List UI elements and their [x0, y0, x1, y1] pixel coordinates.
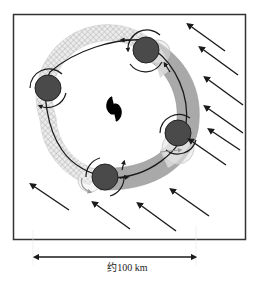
vortex-top [133, 37, 159, 63]
vortex-left [35, 75, 61, 101]
vortex-right [165, 120, 191, 146]
typhoon-mesovortex-diagram [0, 0, 255, 281]
vortex-bottom [92, 164, 118, 190]
scale-label: 约100 km [0, 259, 255, 274]
